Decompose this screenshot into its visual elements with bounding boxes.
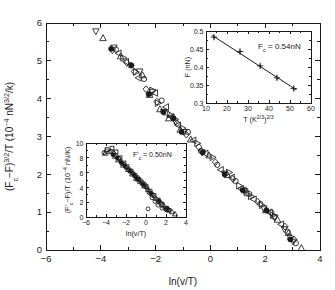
- y-tick-label: 0.35: [190, 82, 204, 89]
- scientific-figure: −6−4−20240123456ln(v/T)(Fc−F)3/2/T (10−4…: [0, 0, 335, 290]
- x-tick-label: −2: [122, 219, 130, 226]
- y-tick-label: 10: [76, 140, 84, 147]
- data-point: [161, 109, 166, 114]
- y-tick-label: 3: [37, 131, 42, 142]
- x-tick-label: 40: [265, 105, 273, 112]
- data-point: [240, 188, 245, 193]
- x-tick-label: 4: [317, 253, 322, 264]
- data-point: [171, 116, 176, 121]
- data-point: [200, 150, 205, 155]
- y-tick-label: 0.5: [194, 28, 204, 35]
- x-tick-label: 0: [144, 219, 148, 226]
- x-tick-label: 50: [286, 105, 294, 112]
- data-point: [222, 172, 227, 177]
- y-tick-label: 0.4: [194, 64, 204, 71]
- figure-root: −6−4−20240123456ln(v/T)(Fc−F)3/2/T (10−4…: [0, 0, 335, 290]
- main-xlabel: ln(v/T): [169, 276, 197, 287]
- y-tick-label: 0: [37, 244, 42, 255]
- x-tick-label: −2: [150, 253, 161, 264]
- data-point: [129, 63, 134, 68]
- x-tick-label: −4: [102, 219, 110, 226]
- inset-bl-xlabel: ln(v/T): [126, 229, 146, 238]
- y-tick-label: 6: [37, 17, 42, 28]
- y-tick-label: 6: [80, 170, 84, 177]
- x-tick-label: 20: [223, 105, 231, 112]
- y-tick-label: 8: [80, 155, 84, 162]
- data-point: [264, 208, 269, 213]
- x-tick-label: 0: [208, 253, 213, 264]
- inset-tr-ylabel: F (nN): [183, 57, 192, 77]
- x-tick-label: −4: [95, 253, 106, 264]
- y-tick-label: 4: [80, 185, 84, 192]
- x-tick-label: 2: [263, 253, 268, 264]
- y-tick-label: 4: [37, 93, 42, 104]
- data-point: [146, 92, 151, 97]
- y-tick-label: 2: [80, 199, 84, 206]
- x-tick-label: 4: [184, 219, 188, 226]
- y-tick-label: 2: [37, 169, 42, 180]
- data-point: [288, 237, 293, 242]
- x-tick-label: 2: [164, 219, 168, 226]
- x-tick-label: −6: [41, 253, 52, 264]
- y-tick-label: 5: [37, 55, 42, 66]
- y-tick-label: 0.3: [194, 100, 204, 107]
- data-point: [179, 129, 184, 134]
- y-tick-label: 0: [80, 214, 84, 221]
- x-tick-label: 30: [244, 105, 252, 112]
- y-tick-label: 0.45: [190, 46, 204, 53]
- y-tick-label: 1: [37, 206, 42, 217]
- data-point: [109, 46, 114, 51]
- x-tick-label: 60: [307, 105, 315, 112]
